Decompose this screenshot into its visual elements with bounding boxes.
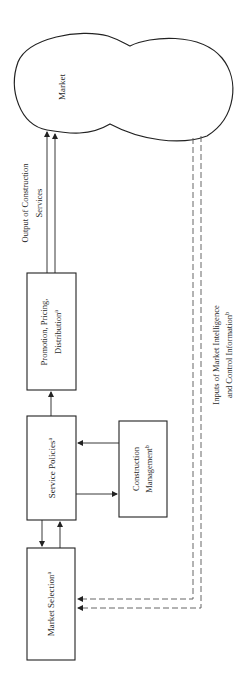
market-cloud: Market bbox=[15, 33, 233, 141]
inputs-flow: Inputs of Market Intelligence and Contro… bbox=[78, 136, 234, 608]
market-cloud-outline bbox=[15, 33, 233, 141]
output-label-line2: Services bbox=[34, 189, 44, 218]
output-label-line1: Output of Construction bbox=[20, 163, 30, 243]
feedback-dashed-line-outer bbox=[78, 136, 201, 608]
svg-text:Distributiona: Distributiona bbox=[53, 310, 63, 354]
construction-management-label-line2: Management bbox=[144, 448, 154, 493]
construction-management-box: Construction Managementb bbox=[119, 421, 167, 517]
svg-text:Service Policiesa: Service Policiesa bbox=[47, 437, 57, 498]
service-policies-label: Service Policies bbox=[47, 440, 57, 498]
construction-management-label-line1: Construction bbox=[131, 446, 141, 491]
market-selection-label: Market Selection bbox=[46, 574, 56, 636]
market-selection-box: Market Selectiona bbox=[27, 548, 75, 660]
service-policies-superscript: a bbox=[47, 437, 53, 440]
promotion-box-outline bbox=[27, 273, 76, 390]
promotion-label-line2: Distribution bbox=[53, 312, 63, 354]
construction-management-superscript: b bbox=[144, 445, 150, 448]
feedback-dashed-line-inner bbox=[78, 138, 193, 599]
inputs-label-line1: Inputs of Market Intelligence bbox=[211, 305, 221, 405]
inputs-superscript: b bbox=[224, 312, 230, 315]
svg-text:Market Selectiona: Market Selectiona bbox=[46, 571, 56, 636]
output-flow: Output of Construction Services bbox=[20, 132, 55, 273]
construction-management-box-outline bbox=[119, 421, 167, 517]
market-label: Market bbox=[57, 74, 67, 100]
promotion-box: Promotion, Pricing, Distributiona bbox=[27, 273, 76, 390]
promotion-label-line1: Promotion, Pricing, bbox=[39, 299, 49, 366]
svg-text:Promotion, Pricing,: Promotion, Pricing, bbox=[39, 299, 49, 366]
promotion-superscript: a bbox=[53, 310, 59, 313]
svg-text:Managementb: Managementb bbox=[144, 445, 154, 492]
service-policies-box: Service Policiesa bbox=[27, 416, 76, 520]
marketing-flow-diagram: Market Output of Construction Services P… bbox=[0, 0, 251, 695]
market-selection-superscript: a bbox=[46, 571, 52, 574]
svg-text:and Control Informationb: and Control Informationb bbox=[224, 312, 234, 398]
svg-text:Construction: Construction bbox=[131, 446, 141, 491]
inputs-label-line2: and Control Information bbox=[224, 314, 234, 398]
